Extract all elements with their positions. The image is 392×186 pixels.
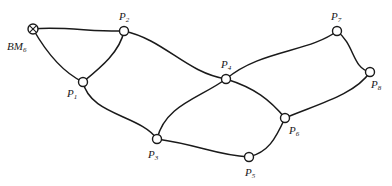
point-node-p1 <box>79 78 88 87</box>
point-label-p8: P8 <box>370 78 382 92</box>
point-node-p4 <box>222 75 231 84</box>
point-label-p4: P4 <box>220 58 232 72</box>
edge-p1-p3 <box>83 82 157 139</box>
leveling-network-diagram: BM6P1P2P3P4P5P6P7P8 <box>0 0 392 186</box>
edge-p3-p4 <box>157 79 226 139</box>
point-node-p6 <box>281 114 290 123</box>
point-node-p7 <box>333 27 342 36</box>
point-label-p5: P5 <box>244 166 256 180</box>
network-nodes <box>28 24 375 162</box>
edge-p7-p8 <box>337 31 370 72</box>
edge-bm6-p2 <box>33 28 124 31</box>
edge-p3-p5 <box>157 139 249 157</box>
edge-p1-p2 <box>83 31 124 82</box>
point-node-p8 <box>366 68 375 77</box>
point-label-p3: P3 <box>147 148 159 162</box>
point-label-p2: P2 <box>118 10 130 24</box>
point-label-p6: P6 <box>288 124 300 138</box>
network-edges <box>33 28 370 157</box>
edge-p8-p6 <box>285 72 370 118</box>
edge-p4-p7 <box>226 31 337 79</box>
edge-p2-p4 <box>124 31 226 79</box>
edge-p4-p6 <box>226 79 285 118</box>
point-node-p3 <box>153 135 162 144</box>
edge-p6-p5 <box>249 118 285 157</box>
edge-bm6-p1 <box>33 29 83 82</box>
point-node-p2 <box>120 27 129 36</box>
network-labels: BM6P1P2P3P4P5P6P7P8 <box>7 10 382 180</box>
point-node-p5 <box>245 153 254 162</box>
point-label-p1: P1 <box>66 87 77 101</box>
benchmark-label-bm6: BM6 <box>7 40 27 54</box>
point-label-p7: P7 <box>330 10 342 24</box>
benchmark-node-bm6 <box>28 24 38 34</box>
